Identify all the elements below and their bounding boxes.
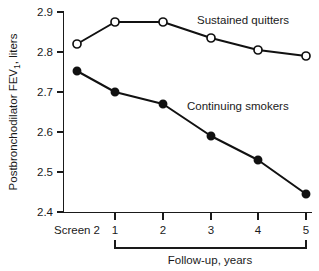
followup-bracket — [115, 240, 306, 248]
y-axis-title-suffix: , liters — [7, 33, 19, 64]
y-tick-label: 2.8 — [37, 46, 53, 58]
x-axis-tick-labels: Screen 2 1 2 3 4 5 — [54, 224, 309, 236]
series-line-continuing-smokers — [77, 71, 306, 194]
series-label-sustained-quitters: Sustained quitters — [197, 14, 289, 26]
y-axis-ticks — [57, 12, 64, 212]
x-tick-label: 3 — [208, 224, 214, 236]
fev1-decline-line-chart: 2.9 2.8 2.7 2.6 2.5 2.4 Postbronchodilat… — [0, 0, 319, 271]
y-axis-title: Postbronchodilator FEV1, liters — [7, 33, 22, 190]
x-axis-title: Follow-up, years — [168, 254, 253, 266]
data-point — [159, 18, 167, 26]
data-point — [159, 100, 166, 107]
data-point — [207, 34, 215, 42]
data-point — [254, 156, 261, 163]
y-axis-title-main: Postbronchodilator FEV — [7, 69, 19, 191]
data-point — [73, 40, 81, 48]
x-tick-label: 1 — [112, 224, 118, 236]
x-tick-label: 2 — [160, 224, 166, 236]
data-point — [254, 46, 262, 54]
data-point — [207, 132, 214, 139]
figure-container: 2.9 2.8 2.7 2.6 2.5 2.4 Postbronchodilat… — [0, 0, 319, 271]
series-line-sustained-quitters — [77, 22, 306, 56]
x-tick-label: 5 — [303, 224, 309, 236]
data-point — [302, 52, 310, 60]
x-tick-label: 4 — [255, 224, 262, 236]
series-continuing-smokers — [73, 67, 309, 197]
x-tick-label-screen2: Screen 2 — [54, 224, 100, 236]
y-tick-label: 2.6 — [37, 126, 53, 138]
data-point — [73, 67, 80, 74]
x-axis-ticks — [115, 213, 306, 221]
y-tick-label: 2.7 — [37, 86, 53, 98]
data-point — [111, 88, 118, 95]
data-point — [111, 18, 119, 26]
y-axis-tick-labels: 2.9 2.8 2.7 2.6 2.5 2.4 — [37, 6, 54, 218]
series-label-continuing-smokers: Continuing smokers — [187, 100, 289, 112]
y-tick-label: 2.4 — [37, 206, 54, 218]
y-tick-label: 2.5 — [37, 166, 53, 178]
data-point — [302, 190, 309, 197]
y-tick-label: 2.9 — [37, 6, 53, 18]
svg-text:Postbronchodilator FEV1, liter: Postbronchodilator FEV1, liters — [7, 33, 22, 190]
